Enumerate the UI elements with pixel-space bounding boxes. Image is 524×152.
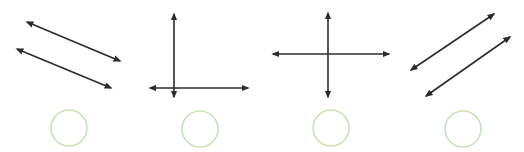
double-arrow-line <box>27 22 120 61</box>
panel-parallel-ascending <box>411 14 510 147</box>
double-arrow-line <box>411 14 494 70</box>
panel-perpendicular-corner <box>150 14 248 147</box>
double-arrow-line <box>426 37 510 96</box>
answer-choice-circle[interactable] <box>445 111 481 147</box>
line-relationships-figure <box>0 0 524 152</box>
answer-choice-circle[interactable] <box>313 110 349 146</box>
answer-choice-circle[interactable] <box>51 110 87 146</box>
panel-perpendicular-cross <box>273 13 389 146</box>
answer-choice-circle[interactable] <box>182 111 218 147</box>
figure-canvas <box>0 0 524 152</box>
panel-parallel-descending <box>17 22 120 146</box>
double-arrow-line <box>17 49 111 88</box>
